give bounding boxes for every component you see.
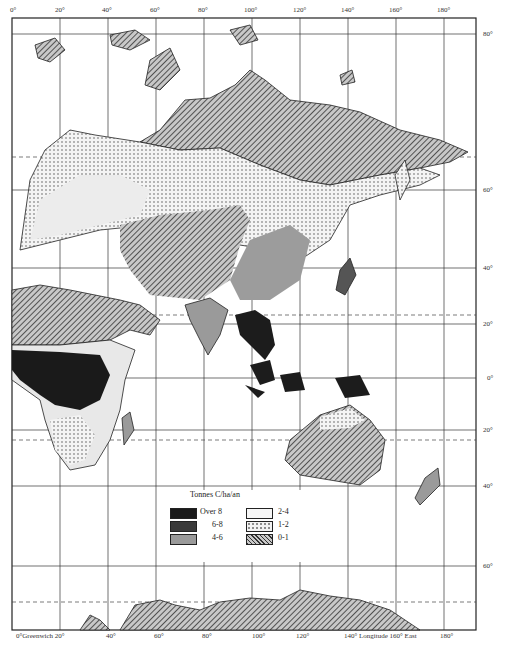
indonesia: [245, 360, 370, 398]
legend-label-4-6: 4-6: [212, 533, 223, 542]
lon-label-160: 160°: [389, 6, 402, 14]
central-africa-dark: [12, 350, 110, 410]
india: [185, 298, 228, 355]
legend-swatch-2-4: [246, 508, 273, 519]
lat-label-60n: 60°: [483, 186, 493, 194]
legend-label-0-1: 0-1: [278, 533, 289, 542]
southeast-asia-dark: [235, 310, 275, 360]
legend-swatch-1-2: [246, 521, 273, 532]
bottom-lon-100: 100°: [252, 632, 265, 640]
bottom-lon-longitude-east: 140° Longitude 160° East: [344, 632, 417, 640]
antarctica: [80, 590, 420, 630]
legend-swatch-4-6: [170, 534, 197, 545]
lon-label-140: 140°: [341, 6, 354, 14]
lat-label-20n: 20°: [483, 320, 493, 328]
bottom-lon-180: 180°: [440, 632, 453, 640]
legend-swatch-over-8: [170, 508, 197, 519]
legend: Tonnes C/ha/an Over 8 6-8 4-6 2-4 1-2 0-…: [160, 490, 330, 562]
lat-label-0: 0°: [487, 374, 493, 382]
lon-label-100: 100°: [244, 6, 257, 14]
lon-label-120: 120°: [293, 6, 306, 14]
japan: [336, 258, 356, 295]
bottom-lon-60: 60°: [154, 632, 164, 640]
legend-label-over-8: Over 8: [200, 507, 222, 516]
north-africa-arabia-hatched: [12, 285, 160, 345]
lat-label-40s: 40°: [483, 482, 493, 490]
lon-label-180: 180°: [437, 6, 450, 14]
legend-label-6-8: 6-8: [212, 520, 223, 529]
arctic-islands: [35, 25, 355, 90]
lat-label-60s: 60°: [483, 562, 493, 570]
lat-label-80n: 80°: [483, 30, 493, 38]
lat-label-40n: 40°: [483, 264, 493, 272]
bottom-lon-120: 120°: [296, 632, 309, 640]
lon-label-0: 0°: [10, 6, 16, 14]
legend-swatch-0-1: [246, 534, 273, 545]
lon-label-20: 20°: [55, 6, 65, 14]
legend-label-1-2: 1-2: [278, 520, 289, 529]
bottom-lon-greenwich: 0°Greenwich 20°: [16, 632, 65, 640]
lon-label-60: 60°: [150, 6, 160, 14]
legend-label-2-4: 2-4: [278, 507, 289, 516]
bottom-lon-80: 80°: [202, 632, 212, 640]
lon-label-40: 40°: [102, 6, 112, 14]
bottom-lon-40: 40°: [106, 632, 116, 640]
lat-label-20s: 20°: [483, 426, 493, 434]
lon-label-80: 80°: [198, 6, 208, 14]
legend-swatch-6-8: [170, 521, 197, 532]
legend-title: Tonnes C/ha/an: [190, 490, 240, 499]
new-zealand: [415, 468, 440, 505]
